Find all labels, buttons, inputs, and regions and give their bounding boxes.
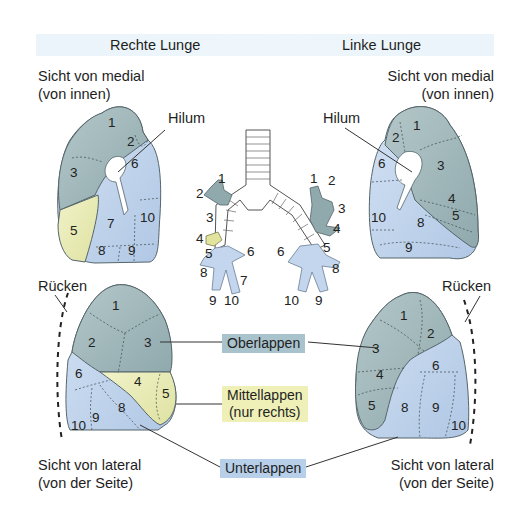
svg-text:3: 3 xyxy=(206,210,214,225)
svg-text:5: 5 xyxy=(368,398,376,413)
svg-text:8: 8 xyxy=(417,215,425,230)
svg-text:6: 6 xyxy=(131,156,139,171)
svg-text:6: 6 xyxy=(75,366,83,381)
svg-text:7: 7 xyxy=(240,273,248,288)
svg-text:10: 10 xyxy=(371,210,386,225)
svg-text:8: 8 xyxy=(401,400,409,415)
svg-text:9: 9 xyxy=(405,240,413,255)
right-lung-lateral: 1 2 3 4 5 6 8 9 10 xyxy=(55,285,222,467)
svg-text:7: 7 xyxy=(107,216,115,231)
svg-text:3: 3 xyxy=(144,335,152,350)
svg-text:2: 2 xyxy=(328,173,336,188)
svg-text:8: 8 xyxy=(98,243,106,258)
svg-text:10: 10 xyxy=(71,418,86,433)
svg-text:10: 10 xyxy=(140,210,155,225)
svg-text:2: 2 xyxy=(88,335,96,350)
svg-text:1: 1 xyxy=(400,308,408,323)
svg-text:8: 8 xyxy=(332,261,340,276)
right-lung-medial: 1 2 3 5 6 7 10 8 9 xyxy=(58,107,165,263)
svg-text:9: 9 xyxy=(315,293,323,308)
svg-text:9: 9 xyxy=(432,400,440,415)
svg-text:10: 10 xyxy=(284,293,299,308)
svg-text:4: 4 xyxy=(376,367,384,382)
svg-text:4: 4 xyxy=(333,221,341,236)
svg-text:6: 6 xyxy=(247,244,255,259)
svg-text:9: 9 xyxy=(92,410,100,425)
svg-text:2: 2 xyxy=(427,326,435,341)
svg-text:2: 2 xyxy=(392,130,400,145)
svg-text:9: 9 xyxy=(209,293,217,308)
svg-text:5: 5 xyxy=(70,223,78,238)
svg-text:5: 5 xyxy=(162,386,170,401)
svg-text:1: 1 xyxy=(413,118,421,133)
left-lung-medial: 1 2 3 4 5 6 10 8 9 xyxy=(345,107,479,259)
svg-text:3: 3 xyxy=(338,201,346,216)
svg-text:10: 10 xyxy=(224,293,239,308)
left-lung-lateral: 1 2 3 4 5 6 8 9 10 xyxy=(306,292,480,467)
svg-text:8: 8 xyxy=(200,265,208,280)
svg-text:1: 1 xyxy=(112,298,120,313)
bronchial-tree: 1 2 3 4 5 6 7 8 9 10 1 2 3 4 5 6 8 9 10 xyxy=(196,130,346,308)
svg-text:8: 8 xyxy=(118,400,126,415)
svg-text:2: 2 xyxy=(127,134,135,149)
lung-diagram: 1 2 3 5 6 7 10 8 9 1 2 3 4 5 6 10 8 9 xyxy=(0,0,528,521)
svg-text:2: 2 xyxy=(196,186,204,201)
svg-text:3: 3 xyxy=(437,158,445,173)
svg-text:9: 9 xyxy=(128,243,136,258)
svg-text:1: 1 xyxy=(310,171,318,186)
svg-text:6: 6 xyxy=(432,358,440,373)
svg-text:5: 5 xyxy=(205,246,213,261)
svg-text:5: 5 xyxy=(323,240,331,255)
svg-text:3: 3 xyxy=(70,165,78,180)
svg-text:3: 3 xyxy=(372,341,380,356)
svg-text:4: 4 xyxy=(448,191,456,206)
svg-text:10: 10 xyxy=(451,418,466,433)
svg-text:1: 1 xyxy=(218,171,226,186)
svg-text:4: 4 xyxy=(196,231,204,246)
svg-text:5: 5 xyxy=(452,208,460,223)
svg-text:1: 1 xyxy=(108,115,116,130)
svg-text:6: 6 xyxy=(277,244,285,259)
svg-text:6: 6 xyxy=(378,156,386,171)
svg-text:4: 4 xyxy=(134,374,142,389)
